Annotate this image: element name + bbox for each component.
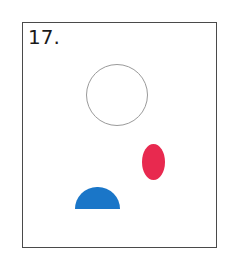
figure-frame — [22, 22, 217, 248]
red-ellipse-shape — [142, 144, 165, 180]
outline-circle-shape — [86, 64, 148, 126]
figure-number-label: 17. — [28, 27, 60, 47]
